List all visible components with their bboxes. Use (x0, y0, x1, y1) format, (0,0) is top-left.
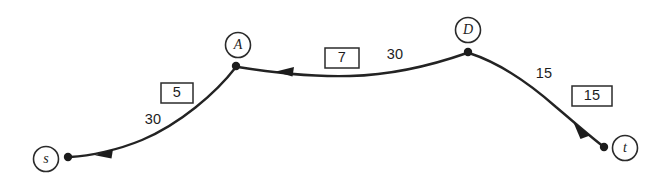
node-A[interactable]: A (226, 33, 251, 58)
node-D[interactable]: D (456, 18, 481, 43)
edge-A-to-s-flow-label: 30 (145, 111, 162, 127)
edge-D-to-A-arrowhead (275, 67, 294, 76)
edge-D-to-A-capacity-label: 7 (338, 49, 346, 65)
node-s[interactable]: s (34, 147, 59, 172)
node-s-label: s (43, 151, 49, 166)
node-t[interactable]: t (613, 136, 638, 161)
edge-A-to-s-capacity-box: 5 (161, 83, 193, 103)
node-dot-A (232, 62, 240, 70)
node-dot-s (64, 153, 72, 161)
node-dot-t (600, 143, 608, 151)
graph-canvas: s A D t 30 5 7 30 15 (0, 0, 671, 184)
edge-D-to-t-flow-label: 15 (536, 65, 553, 81)
graph-diagram-figure: s A D t 30 5 7 30 15 (0, 0, 671, 184)
edge-D-to-A-flow-label: 30 (387, 46, 404, 62)
edge-D-to-t-arrowhead (574, 123, 591, 140)
node-dot-D (464, 48, 472, 56)
edge-A-to-s-capacity-label: 5 (173, 84, 181, 100)
node-A-label: A (233, 37, 243, 52)
edge-D-to-t-capacity-box: 15 (572, 86, 612, 106)
node-D-label: D (462, 22, 473, 37)
edge-D-to-A-capacity-box: 7 (325, 48, 359, 68)
edge-D-to-t-capacity-label: 15 (584, 87, 601, 103)
